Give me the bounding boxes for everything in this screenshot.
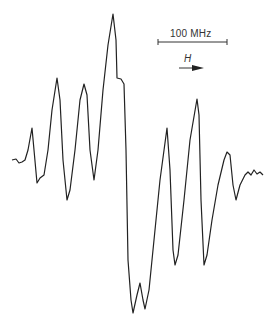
- field-arrow-icon: [179, 65, 204, 71]
- field-direction-label: H: [184, 53, 191, 64]
- spectrum-figure: 100 MHz H: [0, 0, 278, 327]
- scale-bar: [158, 39, 227, 45]
- spectrum-plot: [0, 0, 278, 327]
- scale-bar-label: 100 MHz: [170, 28, 211, 39]
- spectrum-trace: [12, 14, 263, 313]
